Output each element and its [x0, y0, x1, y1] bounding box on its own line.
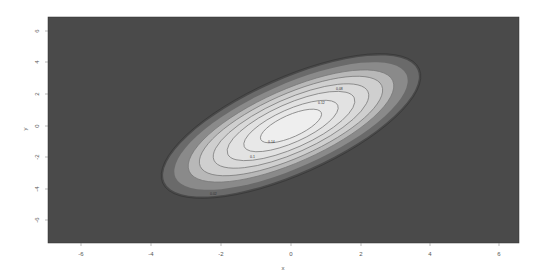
- x-axis-label: x: [282, 265, 285, 271]
- y-axis-label: y: [22, 128, 28, 131]
- contour-label: 0.12: [318, 101, 325, 105]
- contour-label: 0.14: [268, 140, 275, 144]
- y-tick-label: -2: [34, 154, 40, 160]
- x-tick-label: -4: [148, 251, 154, 257]
- y-tick-label: 2: [34, 92, 40, 96]
- y-tick-label: 6: [34, 29, 40, 33]
- x-tick-label: 2: [359, 251, 363, 257]
- contour-label: 0.1: [250, 155, 255, 159]
- contour-label: 0.02: [210, 192, 217, 196]
- y-axis: 6 4 2 0 -2 -4 -6 y: [22, 29, 48, 223]
- contour-label: 0.08: [336, 87, 343, 91]
- x-tick-label: -2: [218, 251, 224, 257]
- x-tick-label: 4: [428, 251, 432, 257]
- x-tick-label: 0: [289, 251, 293, 257]
- x-axis: -6 -4 -2 0 2 4 6 x: [78, 243, 501, 271]
- x-tick-label: 6: [497, 251, 501, 257]
- y-tick-label: 0: [34, 124, 40, 128]
- x-tick-label: -6: [78, 251, 84, 257]
- contour-chart: 0.12 0.08 0.14 0.1 0.02 -6 -4 -2 0 2 4 6…: [0, 0, 547, 280]
- y-tick-label: -6: [34, 217, 40, 223]
- y-tick-label: 4: [34, 60, 40, 64]
- y-tick-label: -4: [34, 186, 40, 192]
